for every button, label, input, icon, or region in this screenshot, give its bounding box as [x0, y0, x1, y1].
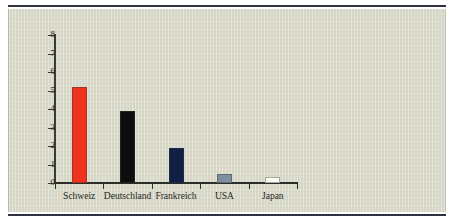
bar-schweiz	[72, 87, 87, 183]
chart-figure: 012345678 SchweizDeutschlandFrankreichUS…	[0, 0, 454, 223]
x-axis-label-japan: Japan	[228, 191, 318, 202]
bar-series	[0, 0, 454, 183]
bar-deutschland	[120, 111, 135, 183]
bar-usa	[217, 174, 232, 183]
bar-japan	[265, 177, 280, 183]
x-tick-mark	[103, 183, 104, 189]
x-tick-mark	[200, 183, 201, 189]
x-tick-mark	[152, 183, 153, 189]
bottom-rule	[8, 214, 446, 216]
x-tick-mark	[55, 183, 56, 189]
bar-frankreich	[169, 148, 184, 183]
x-tick-mark	[249, 183, 250, 189]
x-tick-mark	[297, 183, 298, 189]
